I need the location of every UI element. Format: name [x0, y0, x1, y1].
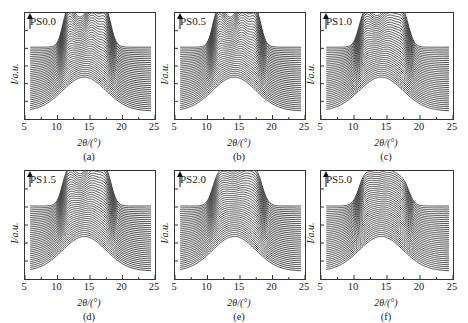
x-axis-label: 2θ/(°): [320, 297, 452, 308]
x-tick-labels: 510152025: [24, 281, 154, 293]
curves: [175, 13, 305, 119]
arrow-up-icon: [25, 13, 35, 29]
x-tick: 25: [447, 121, 458, 132]
x-tick: 5: [21, 121, 26, 132]
arrow-up-icon: [321, 171, 331, 187]
x-tick: 25: [149, 121, 160, 132]
panel-caption: (a): [24, 151, 154, 162]
x-tick-labels: 510152025: [320, 281, 452, 293]
y-axis-label: I/a.u.: [305, 204, 316, 244]
plot-area-b: PS0.5: [174, 12, 306, 120]
x-tick-labels: 510152025: [320, 121, 452, 133]
x-tick: 15: [381, 281, 392, 292]
x-tick: 20: [414, 121, 425, 132]
x-tick: 15: [84, 281, 95, 292]
curves: [321, 13, 453, 119]
x-tick: 5: [21, 281, 26, 292]
y-axis-label: I/a.u.: [9, 45, 20, 85]
x-axis-label: 2θ/(°): [174, 297, 304, 308]
x-tick: 15: [234, 121, 245, 132]
x-tick: 5: [171, 281, 176, 292]
x-axis-label: 2θ/(°): [24, 297, 154, 308]
curves: [321, 171, 453, 279]
x-tick: 15: [84, 121, 95, 132]
x-tick: 15: [234, 281, 245, 292]
panel-caption: (d): [24, 311, 154, 322]
plot-area-e: PS2.0: [174, 170, 306, 280]
x-tick-labels: 510152025: [24, 121, 154, 133]
x-tick-labels: 510152025: [174, 121, 304, 133]
x-tick: 20: [414, 281, 425, 292]
y-axis-label: I/a.u.: [9, 204, 20, 244]
x-tick: 20: [116, 281, 127, 292]
curves: [25, 171, 155, 279]
panel-caption: (e): [174, 311, 304, 322]
x-tick: 25: [149, 281, 160, 292]
arrow-up-icon: [321, 13, 331, 29]
x-tick: 20: [266, 121, 277, 132]
panel-caption: (c): [320, 151, 452, 162]
panel-caption: (b): [174, 151, 304, 162]
arrow-up-icon: [175, 171, 185, 187]
x-tick: 5: [317, 121, 322, 132]
plot-area-f: PS5.0: [320, 170, 454, 280]
x-tick: 10: [51, 281, 62, 292]
x-axis-label: 2θ/(°): [320, 137, 452, 148]
curves: [175, 171, 305, 279]
x-tick: 10: [348, 121, 359, 132]
x-tick-labels: 510152025: [174, 281, 304, 293]
y-axis-label: I/a.u.: [159, 204, 170, 244]
x-tick: 10: [201, 281, 212, 292]
x-tick: 10: [348, 281, 359, 292]
arrow-up-icon: [175, 13, 185, 29]
plot-area-c: PS1.0: [320, 12, 454, 120]
x-tick: 15: [381, 121, 392, 132]
y-axis-label: I/a.u.: [305, 45, 316, 85]
curves: [25, 13, 155, 119]
x-tick: 5: [317, 281, 322, 292]
plot-area-a: PS0.0: [24, 12, 156, 120]
x-tick: 25: [447, 281, 458, 292]
x-axis-label: 2θ/(°): [174, 137, 304, 148]
x-tick: 10: [51, 121, 62, 132]
x-tick: 20: [116, 121, 127, 132]
plot-area-d: PS1.5: [24, 170, 156, 280]
y-axis-label: I/a.u.: [159, 45, 170, 85]
x-tick: 25: [299, 121, 310, 132]
panel-caption: (f): [320, 311, 452, 322]
x-tick: 10: [201, 121, 212, 132]
x-tick: 25: [299, 281, 310, 292]
x-tick: 5: [171, 121, 176, 132]
x-axis-label: 2θ/(°): [24, 137, 154, 148]
x-tick: 20: [266, 281, 277, 292]
arrow-up-icon: [25, 171, 35, 187]
